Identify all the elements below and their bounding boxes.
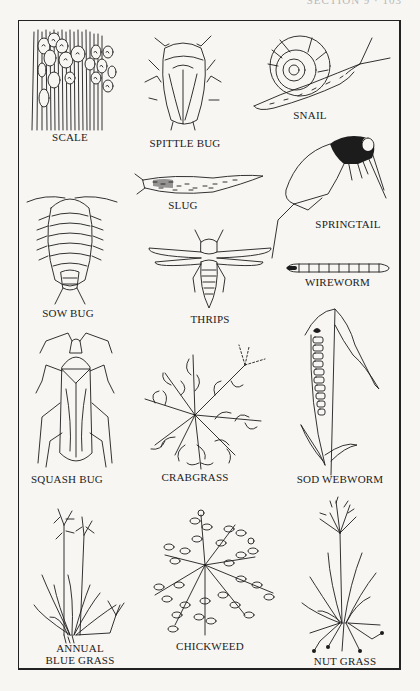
squash-bug-illustration xyxy=(32,333,122,468)
label-snail: SNAIL xyxy=(260,109,360,121)
specimen-snail: SNAIL xyxy=(250,28,400,128)
scale-illustration xyxy=(30,30,110,130)
nut-grass-illustration xyxy=(300,493,400,653)
label-spittle-bug: SPITTLE BUG xyxy=(135,137,235,149)
specimen-thrips: THRIPS xyxy=(145,228,275,328)
specimen-springtail: SPRINGTAIL xyxy=(268,130,398,240)
crabgrass-illustration xyxy=(135,345,265,470)
label-blue-grass: BLUE GRASS xyxy=(30,654,130,666)
specimen-scale: SCALE xyxy=(30,30,110,155)
spittle-bug-illustration xyxy=(135,30,235,130)
springtail-illustration xyxy=(268,130,398,260)
specimen-crabgrass: CRABGRASS xyxy=(135,345,265,490)
label-crabgrass: CRABGRASS xyxy=(145,471,245,483)
label-chickweed: CHICKWEED xyxy=(160,640,260,652)
specimen-wireworm: WIREWORM xyxy=(285,262,390,302)
chickweed-illustration xyxy=(145,505,275,635)
label-sow-bug: SOW BUG xyxy=(23,307,113,319)
specimen-spittle-bug: SPITTLE BUG xyxy=(135,30,235,155)
specimen-squash-bug: SQUASH BUG xyxy=(32,333,122,493)
label-nut-grass: NUT GRASS xyxy=(295,655,395,667)
sod-webworm-illustration xyxy=(295,305,395,475)
label-thrips: THRIPS xyxy=(160,313,260,325)
thrips-illustration xyxy=(145,228,275,308)
specimen-sod-webworm: SOD WEBWORM xyxy=(295,305,395,485)
annual-blue-grass-illustration xyxy=(30,505,130,643)
slug-illustration xyxy=(133,168,268,198)
label-annual: ANNUAL xyxy=(30,642,130,654)
specimen-nut-grass: NUT GRASS xyxy=(300,493,400,668)
snail-illustration xyxy=(250,28,400,118)
wireworm-illustration xyxy=(285,262,390,274)
label-sod-webworm: SOD WEBWORM xyxy=(285,473,395,485)
label-squash-bug: SQUASH BUG xyxy=(22,473,112,485)
sow-bug-illustration xyxy=(25,180,115,305)
specimen-chickweed: CHICKWEED xyxy=(145,505,275,655)
label-wireworm: WIREWORM xyxy=(285,276,390,288)
label-scale: SCALE xyxy=(30,131,110,143)
label-slug: SLUG xyxy=(133,199,233,211)
page-header: SECTION 9 · 103 xyxy=(307,0,402,6)
specimen-annual-blue-grass: ANNUAL BLUE GRASS xyxy=(30,505,130,670)
specimen-slug: SLUG xyxy=(133,168,268,218)
specimen-sow-bug: SOW BUG xyxy=(25,180,115,325)
label-springtail: SPRINGTAIL xyxy=(298,218,398,230)
